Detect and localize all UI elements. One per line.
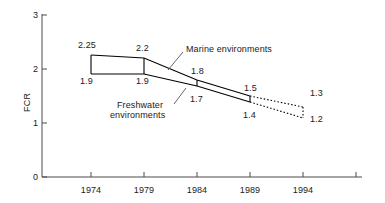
data-label-freshwater-1979: 1.9 xyxy=(136,76,149,86)
leader-line-freshwater xyxy=(174,88,186,104)
annotation-marine: Marine environments xyxy=(186,44,272,55)
data-label-marine-1979: 2.2 xyxy=(136,43,149,53)
chart-container: FCR 3 2 1 0 1974 1979 1984 1989 1994 2.2… xyxy=(0,0,385,203)
y-tick-label-3: 3 xyxy=(26,10,38,20)
data-label-marine-1984: 1.8 xyxy=(191,66,204,76)
y-tick-label-1: 1 xyxy=(26,118,38,128)
series-line-marine xyxy=(91,55,250,96)
data-label-freshwater-1974: 1.9 xyxy=(80,76,93,86)
data-label-marine-1974: 2.25 xyxy=(78,40,96,50)
y-axis-title: FCR xyxy=(22,93,32,112)
series-projection-freshwater xyxy=(250,102,303,118)
x-tick-label-1989: 1989 xyxy=(230,185,270,195)
series-line-freshwater xyxy=(91,74,250,102)
x-tick-label-1984: 1984 xyxy=(177,185,217,195)
y-tick-label-0: 0 xyxy=(26,172,38,182)
data-label-freshwater-1984: 1.7 xyxy=(190,94,203,104)
x-tick-label-1974: 1974 xyxy=(71,185,111,195)
data-label-marine-1994: 1.3 xyxy=(310,88,323,98)
leader-line-marine xyxy=(168,52,183,70)
data-label-freshwater-1989: 1.4 xyxy=(243,110,256,120)
series-projection-marine xyxy=(250,96,303,107)
x-tick-label-1979: 1979 xyxy=(124,185,164,195)
x-tick-label-1994: 1994 xyxy=(283,185,323,195)
annotation-freshwater-line2: environments xyxy=(110,110,165,121)
data-label-marine-1989: 1.5 xyxy=(244,83,257,93)
data-label-freshwater-1994: 1.2 xyxy=(310,114,323,124)
y-tick-label-2: 2 xyxy=(26,64,38,74)
